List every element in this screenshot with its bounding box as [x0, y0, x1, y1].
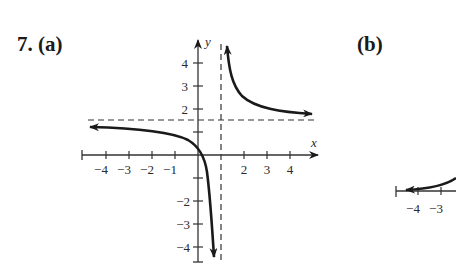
- x-tick-label: 2: [241, 162, 248, 177]
- x-tick-label: 3: [264, 162, 271, 177]
- x-axis: −4 −3 −2 −1 2 3 4 x: [82, 135, 318, 177]
- x-tick-label: −4: [94, 162, 108, 177]
- y-axis: 4 3 2 −2 −3 −4 y: [176, 34, 211, 262]
- curve-panel-b: [406, 178, 456, 190]
- y-tick-label: 2: [182, 102, 189, 117]
- y-tick-label: −4: [176, 240, 190, 255]
- curve-left-branch: [90, 127, 214, 257]
- x-tick-label: 4: [287, 162, 294, 177]
- x-tick-label: −4: [406, 201, 420, 216]
- y-tick-label: 4: [182, 56, 189, 71]
- graph-panel-b: −4 −3: [396, 178, 456, 216]
- x-tick-label: −2: [140, 162, 154, 177]
- graph-panel-a: −4 −3 −2 −1 2 3 4 x 4 3 2 −2 −3 −4 y: [0, 0, 456, 270]
- y-tick-label: −2: [176, 194, 190, 209]
- y-axis-label: y: [203, 34, 211, 49]
- y-tick-label: −3: [176, 217, 190, 232]
- curve-right-branch: [227, 46, 312, 114]
- y-tick-label: 3: [182, 79, 189, 94]
- x-axis-label: x: [310, 135, 317, 150]
- x-tick-label: −3: [429, 201, 443, 216]
- x-tick-label: −3: [117, 162, 131, 177]
- x-tick-label: −1: [163, 162, 177, 177]
